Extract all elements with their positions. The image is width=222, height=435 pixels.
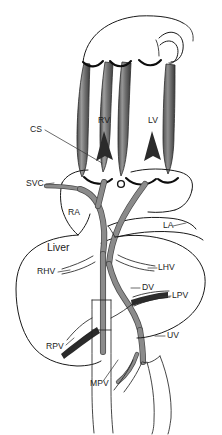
label-liver: Liver bbox=[47, 242, 70, 253]
label-ra: RA bbox=[68, 207, 80, 217]
umbilical-vein-vessel bbox=[140, 330, 143, 362]
label-lpv: LPV bbox=[172, 290, 189, 300]
label-rpv: RPV bbox=[46, 341, 64, 351]
label-uv: UV bbox=[167, 330, 179, 340]
diagram-canvas: CS RV LV SVC RA LA Liver RHV LHV DV LPV … bbox=[0, 0, 222, 435]
label-la: LA bbox=[163, 220, 174, 230]
label-rv: RV bbox=[98, 115, 110, 125]
label-lhv: LHV bbox=[158, 262, 175, 272]
label-dv: DV bbox=[142, 282, 154, 292]
label-lv: LV bbox=[148, 115, 158, 125]
label-rhv: RHV bbox=[37, 266, 55, 276]
fetal-circulation-figure: CS RV LV SVC RA LA Liver RHV LHV DV LPV … bbox=[0, 0, 222, 435]
label-svc: SVC bbox=[26, 178, 44, 188]
label-mpv: MPV bbox=[90, 378, 109, 388]
label-cs: CS bbox=[30, 124, 42, 134]
